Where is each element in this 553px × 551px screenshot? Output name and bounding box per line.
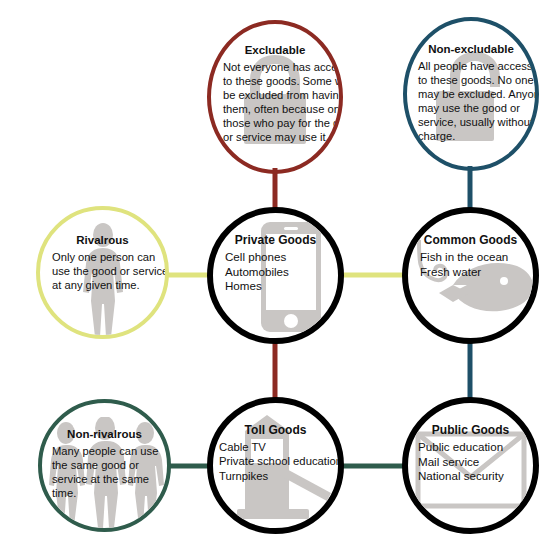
node-non-excludable[interactable]: Non-excludable All people have access to… xyxy=(403,17,539,171)
non-excludable-description: All people have access to these goods. N… xyxy=(418,59,524,144)
node-rivalrous[interactable]: Rivalrous Only one person can use the go… xyxy=(36,206,169,339)
toll-goods-title: Toll Goods xyxy=(219,424,332,437)
excludable-title: Excludable xyxy=(221,44,329,57)
node-non-rivalrous[interactable]: Non-rivalrous Many people can use the sa… xyxy=(38,399,171,532)
private-goods-text-block: Private Goods Cell phones Automobiles Ho… xyxy=(213,234,338,294)
rivalrous-description: Only one person can use the good or serv… xyxy=(52,250,153,292)
toll-goods-text-block: Toll Goods Cable TV Private school educa… xyxy=(213,424,338,483)
node-toll-goods[interactable]: Toll Goods Cable TV Private school educa… xyxy=(207,397,344,534)
private-goods-examples: Cell phones Automobiles Homes xyxy=(225,250,326,294)
non-rivalrous-title: Non-rivalrous xyxy=(52,428,157,441)
public-goods-title: Public Goods xyxy=(418,424,523,437)
common-goods-examples: Fish in the ocean Fresh water xyxy=(420,250,521,279)
rivalrous-title: Rivalrous xyxy=(52,234,153,247)
public-goods-examples: Public education Mail service National s… xyxy=(418,440,523,484)
excludable-description: Not everyone has access to these goods. … xyxy=(221,60,329,145)
common-goods-title: Common Goods xyxy=(420,234,521,247)
non-excludable-title: Non-excludable xyxy=(418,43,524,56)
rivalrous-text-block: Rivalrous Only one person can use the go… xyxy=(40,234,165,292)
non-rivalrous-description: Many people can use the same good or ser… xyxy=(52,444,157,500)
node-excludable[interactable]: Excludable Not everyone has access to th… xyxy=(207,20,343,174)
private-goods-title: Private Goods xyxy=(225,234,326,247)
node-public-goods[interactable]: Public Goods Public education Mail servi… xyxy=(402,397,539,534)
excludable-text-block: Excludable Not everyone has access to th… xyxy=(211,44,339,144)
node-private-goods[interactable]: Private Goods Cell phones Automobiles Ho… xyxy=(207,207,344,344)
toll-goods-examples: Cable TV Private school education Turnpi… xyxy=(219,440,332,483)
common-goods-text-block: Common Goods Fish in the ocean Fresh wat… xyxy=(408,234,533,279)
non-rivalrous-text-block: Non-rivalrous Many people can use the sa… xyxy=(42,428,167,500)
public-goods-text-block: Public Goods Public education Mail servi… xyxy=(408,424,533,484)
goods-classification-diagram: Excludable Not everyone has access to th… xyxy=(0,0,553,551)
node-common-goods[interactable]: Common Goods Fish in the ocean Fresh wat… xyxy=(402,207,539,344)
non-excludable-text-block: Non-excludable All people have access to… xyxy=(407,43,535,143)
